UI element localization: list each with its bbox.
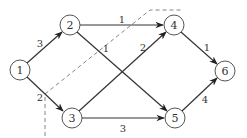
flow-network-diagram: 3 2 1 1 2 3 1 4 1 2 3 4 5 6 — [0, 0, 247, 138]
node-3: 3 — [62, 108, 82, 128]
edge-label-2-5: 1 — [103, 43, 109, 54]
edge-4-6 — [181, 32, 217, 64]
node-4: 4 — [164, 15, 184, 35]
edge-1-2 — [27, 32, 62, 63]
svg-text:4: 4 — [171, 19, 178, 32]
edge-label-3-4: 2 — [140, 42, 146, 53]
node-6: 6 — [215, 61, 235, 81]
svg-text:2: 2 — [67, 19, 74, 32]
edge-label-4-6: 1 — [204, 42, 210, 53]
node-5: 5 — [165, 108, 185, 128]
edge-5-6 — [182, 78, 217, 111]
svg-text:6: 6 — [222, 65, 229, 78]
edge-label-3-5: 3 — [120, 123, 126, 134]
edge-label-1-2: 3 — [37, 38, 43, 49]
edge-label-5-6: 4 — [202, 94, 208, 105]
node-2: 2 — [60, 15, 80, 35]
svg-text:3: 3 — [69, 112, 76, 125]
edge-label-2-4: 1 — [119, 14, 125, 25]
node-1: 1 — [10, 60, 30, 80]
svg-text:5: 5 — [172, 112, 179, 125]
svg-text:1: 1 — [17, 64, 24, 77]
edge-label-1-3: 2 — [37, 92, 43, 103]
